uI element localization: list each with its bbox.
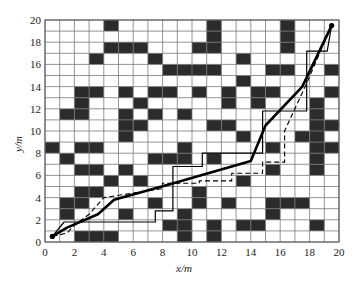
obstacle-cell — [207, 231, 222, 242]
y-axis-ticks: 02468101214161820 — [30, 14, 42, 248]
obstacle-cell — [163, 220, 178, 231]
obstacle-cell — [310, 153, 325, 164]
obstacle-cell — [60, 198, 75, 209]
obstacle-cell — [251, 220, 266, 231]
obstacle-cell — [192, 187, 207, 198]
obstacle-cell — [295, 131, 310, 142]
obstacle-cell — [192, 42, 207, 53]
obstacle-cell — [148, 53, 163, 64]
obstacle-cell — [74, 231, 89, 242]
obstacle-cell — [207, 20, 222, 31]
obstacle-cell — [266, 142, 281, 153]
obstacle-cell — [280, 42, 295, 53]
obstacle-cell — [119, 120, 134, 131]
obstacle-cell — [266, 87, 281, 98]
obstacle-cell — [207, 220, 222, 231]
y-tick-label: 4 — [36, 192, 42, 204]
obstacle-cell — [148, 198, 163, 209]
obstacle-cell — [324, 142, 339, 153]
y-tick-label: 6 — [36, 169, 42, 181]
x-tick-label: 6 — [130, 246, 136, 258]
y-tick-label: 18 — [30, 36, 42, 48]
x-tick-label: 18 — [304, 246, 316, 258]
obstacle-cell — [324, 87, 339, 98]
path-planning-grid-chart: 02468101214161820 02468101214161820 x/m … — [0, 0, 356, 285]
x-tick-label: 2 — [72, 246, 78, 258]
obstacle-cell — [163, 64, 178, 75]
obstacle-cell — [119, 209, 134, 220]
y-tick-label: 14 — [30, 81, 42, 93]
obstacle-cell — [133, 42, 148, 53]
obstacle-cell — [177, 142, 192, 153]
obstacle-cell — [89, 164, 104, 175]
obstacle-cell — [207, 120, 222, 131]
obstacle-cell — [163, 153, 178, 164]
obstacle-cell — [104, 20, 119, 31]
obstacle-cell — [89, 87, 104, 98]
obstacle-cell — [192, 64, 207, 75]
obstacle-cell — [236, 131, 251, 142]
obstacle-cell — [74, 164, 89, 175]
obstacle-cell — [177, 209, 192, 220]
obstacle-cell — [148, 109, 163, 120]
obstacle-cell — [74, 142, 89, 153]
x-tick-label: 14 — [245, 246, 257, 258]
obstacle-cell — [119, 131, 134, 142]
obstacle-cell — [310, 120, 325, 131]
y-tick-label: 16 — [30, 58, 42, 70]
obstacle-cell — [280, 198, 295, 209]
obstacle-cell — [133, 175, 148, 186]
obstacle-cell — [133, 98, 148, 109]
obstacle-cell — [119, 164, 134, 175]
obstacle-cell — [221, 120, 236, 131]
x-tick-label: 4 — [101, 246, 107, 258]
obstacle-cell — [295, 198, 310, 209]
start-point — [50, 234, 55, 239]
obstacle-cell — [310, 142, 325, 153]
obstacle-cell — [207, 42, 222, 53]
obstacle-cell — [236, 220, 251, 231]
obstacle-cell — [60, 209, 75, 220]
end-point — [329, 23, 334, 28]
obstacle-cell — [177, 109, 192, 120]
y-tick-label: 8 — [36, 147, 42, 159]
obstacle-cell — [148, 87, 163, 98]
obstacle-cell — [280, 31, 295, 42]
obstacle-cell — [280, 64, 295, 75]
obstacle-cell — [60, 109, 75, 120]
obstacle-cell — [221, 98, 236, 109]
obstacle-cell — [177, 231, 192, 242]
x-tick-label: 16 — [275, 246, 287, 258]
obstacle-cell — [104, 231, 119, 242]
x-tick-label: 8 — [160, 246, 166, 258]
x-tick-label: 12 — [216, 246, 227, 258]
obstacle-cell — [74, 187, 89, 198]
obstacle-cell — [236, 175, 251, 186]
obstacle-cell — [119, 42, 134, 53]
obstacle-cell — [89, 231, 104, 242]
y-tick-label: 10 — [30, 125, 42, 137]
obstacle-cell — [148, 153, 163, 164]
obstacle-cell — [104, 175, 119, 186]
obstacle-cell — [310, 131, 325, 142]
x-tick-label: 0 — [42, 246, 48, 258]
obstacle-cell — [74, 109, 89, 120]
obstacle-cell — [280, 20, 295, 31]
obstacle-cell — [207, 64, 222, 75]
x-axis-ticks: 02468101214161820 — [42, 246, 345, 258]
obstacle-cell — [74, 198, 89, 209]
obstacle-cell — [324, 120, 339, 131]
obstacle-cell — [251, 98, 266, 109]
obstacle-cell — [177, 220, 192, 231]
y-tick-label: 20 — [30, 14, 42, 26]
x-tick-label: 10 — [187, 246, 199, 258]
obstacle-cell — [310, 164, 325, 175]
obstacle-cell — [192, 198, 207, 209]
obstacle-cell — [104, 42, 119, 53]
obstacle-cell — [119, 87, 134, 98]
obstacle-cell — [74, 87, 89, 98]
obstacle-cell — [266, 198, 281, 209]
obstacle-cell — [133, 120, 148, 131]
obstacle-cell — [177, 64, 192, 75]
obstacle-cell — [324, 64, 339, 75]
